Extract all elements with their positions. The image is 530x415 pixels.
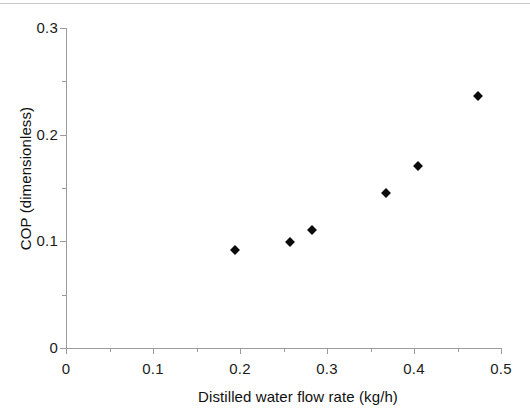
x-axis-major-tick [153,348,154,354]
y-axis-line [66,28,67,348]
x-axis-title: Distilled water flow rate (kg/h) [0,388,530,405]
x-axis-tick-label: 0.4 [403,360,424,377]
x-axis-minor-tick [110,348,111,352]
x-axis-tick-label: 0.5 [490,360,511,377]
x-axis-title-text: Distilled water flow rate (kg/h) [198,388,398,405]
y-axis-major-tick [60,241,66,242]
x-axis-tick-label: 0.3 [316,360,337,377]
x-axis-minor-tick [284,348,285,352]
y-axis-minor-tick [62,188,66,189]
data-point [230,245,240,255]
x-axis-minor-tick [458,348,459,352]
y-axis-title-text: COP (dimensionless) [17,107,34,250]
x-axis-major-tick [414,348,415,354]
x-axis-tick-label: 0.2 [229,360,250,377]
x-axis-major-tick [240,348,241,354]
y-axis-title: COP (dimensionless) [17,49,34,309]
data-point [307,225,317,235]
x-axis-minor-tick [197,348,198,352]
data-point [413,161,423,171]
x-axis-major-tick [327,348,328,354]
y-axis-minor-tick [62,81,66,82]
x-axis-major-tick [501,348,502,354]
plot-area [66,28,501,348]
x-axis-minor-tick [371,348,372,352]
data-point [285,237,295,247]
x-axis-tick-label: 0.1 [142,360,163,377]
data-point [473,91,483,101]
chart-container: 00.10.20.3 00.10.20.30.40.5 Distilled wa… [0,0,530,415]
data-point [381,188,391,198]
y-axis-minor-tick [62,295,66,296]
y-axis-major-tick [60,135,66,136]
x-axis-major-tick [66,348,67,354]
x-axis-tick-label: 0 [62,360,71,377]
y-axis-major-tick [60,28,66,29]
